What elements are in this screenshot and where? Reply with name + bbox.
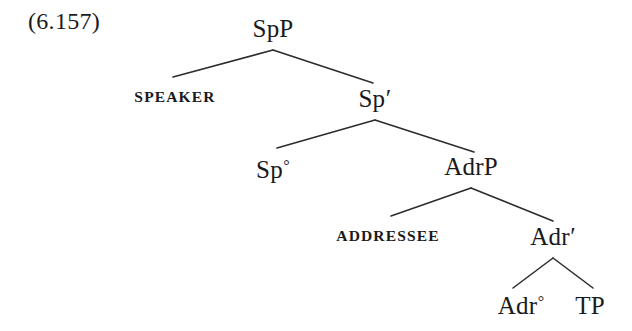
node-sp-head: Sp° — [256, 157, 290, 182]
branch-adr_bar-to-tp — [553, 258, 593, 288]
tree-branch-lines — [0, 0, 632, 331]
syntax-tree-figure: (6.157) SpP SPEAKER Sp′ Sp° AdrP ADDRESS… — [0, 0, 632, 331]
node-tp: TP — [575, 293, 605, 318]
degree-icon: ° — [537, 293, 544, 310]
node-adrp: AdrP — [444, 154, 498, 179]
branch-adrp-to-adr_bar — [471, 188, 553, 221]
prime-mark: ′ — [570, 223, 576, 250]
branch-sp_bar-to-adrp — [375, 120, 474, 152]
node-adr-bar: Adr′ — [530, 224, 576, 249]
branch-adr_bar-to-adr_head — [513, 258, 553, 288]
branch-adrp-to-addressee — [391, 188, 471, 216]
branch-sp_bar-to-sp_head — [277, 120, 375, 148]
node-spp: SpP — [253, 16, 294, 41]
node-addressee: ADDRESSEE — [336, 228, 439, 244]
degree-icon: ° — [283, 157, 290, 174]
node-adr-head: Adr° — [498, 293, 545, 318]
prime-mark: ′ — [385, 85, 391, 112]
branch-spp-to-speaker — [173, 50, 273, 77]
node-speaker: SPEAKER — [134, 89, 215, 105]
node-sp-bar: Sp′ — [359, 86, 392, 111]
branch-spp-to-sp_bar — [273, 50, 373, 83]
